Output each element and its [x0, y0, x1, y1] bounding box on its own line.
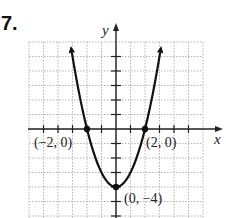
curve-arrow-icon — [69, 46, 75, 53]
curve-arrow-icon — [157, 46, 163, 53]
y-axis-arrow-icon — [113, 23, 119, 31]
point-marker — [142, 126, 148, 132]
point-label-vertex: (0, −4) — [124, 191, 163, 207]
point-marker — [84, 126, 90, 132]
y-axis-label: y — [100, 22, 109, 38]
parabola-graph: y x (−2, 0) (2, 0) (0, −4) — [0, 0, 226, 218]
x-axis-label: x — [213, 131, 221, 147]
axes — [28, 23, 223, 218]
point-marker — [113, 184, 119, 190]
point-label-left: (−2, 0) — [34, 135, 73, 151]
point-label-right: (2, 0) — [146, 135, 177, 151]
